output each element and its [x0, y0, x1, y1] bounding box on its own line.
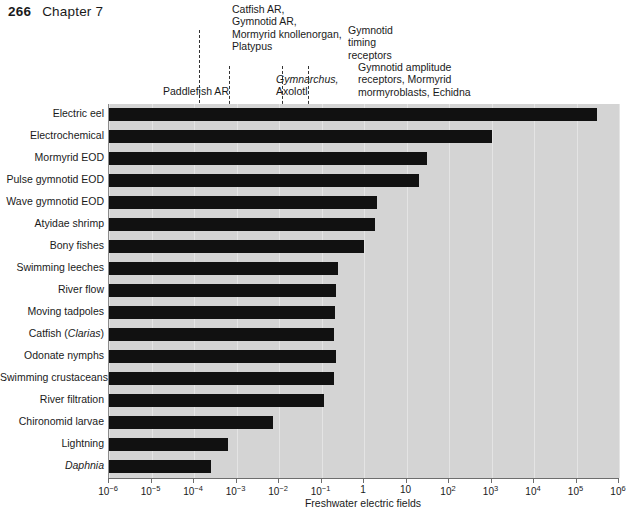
bar-row	[109, 214, 619, 236]
y-axis-label: Pulse gymnotid EOD	[0, 174, 104, 185]
bar-row	[109, 192, 619, 214]
figure-electric-field-chart: Catfish AR,Gymnotid AR,Mormyrid knolleno…	[0, 0, 641, 507]
y-axis-label: Odonate nymphs	[0, 350, 104, 361]
x-axis-tick	[576, 478, 577, 483]
y-axis-label: Catfish (Clarias)	[0, 328, 104, 339]
x-axis-tick	[406, 478, 407, 483]
bar	[109, 218, 375, 231]
bar-row	[109, 280, 619, 302]
y-axis-label: Atyidae shrimp	[0, 218, 104, 229]
annotation-line: Catfish AR,	[232, 3, 352, 15]
x-axis-tick	[533, 478, 534, 483]
bar	[109, 438, 228, 451]
x-axis-tick	[108, 478, 109, 483]
annotation-line: receptors, Mormyrid	[358, 73, 503, 85]
y-axis-label: Bony fishes	[0, 240, 104, 251]
x-axis-tick-label: 10−1	[311, 484, 331, 497]
annotation-line: Axolotl	[276, 85, 346, 97]
y-axis-label: Swimming leeches	[0, 262, 104, 273]
bar	[109, 460, 211, 473]
x-axis-tick	[321, 478, 322, 483]
bar	[109, 306, 335, 319]
x-axis-title: Freshwater electric fields	[108, 497, 618, 507]
annotation-line: timing	[348, 36, 418, 48]
x-axis-tick	[278, 478, 279, 483]
y-axis-label: Electrochemical	[0, 130, 104, 141]
x-axis-tick	[193, 478, 194, 483]
bar-row	[109, 258, 619, 280]
bar-row	[109, 390, 619, 412]
bar	[109, 284, 336, 297]
gridline-decade	[619, 104, 620, 478]
annotation-line: Platypus	[232, 40, 352, 52]
annotation-line: Gymnotid AR,	[232, 15, 352, 27]
bar-row	[109, 126, 619, 148]
x-axis-tick-label: 10−5	[141, 484, 161, 497]
annotation-line: receptors	[348, 49, 418, 61]
x-axis-tick-label: 10−4	[183, 484, 203, 497]
x-axis-tick	[236, 478, 237, 483]
annotation-gymnotid-amplitude: Gymnotid amplitudereceptors, Mormyridmor…	[358, 61, 503, 98]
plot-area	[108, 104, 619, 478]
y-axis-label: River flow	[0, 284, 104, 295]
x-axis-tick-label: 10	[400, 484, 411, 495]
x-axis-tick-label: 10−6	[98, 484, 118, 497]
annotation-paddlefish: Paddlefish AR	[163, 85, 263, 97]
bar-row	[109, 412, 619, 434]
annotation-line: mormyroblasts, Echidna	[358, 86, 503, 98]
x-axis-tick-label: 104	[525, 484, 540, 497]
bar-row	[109, 148, 619, 170]
bar-row	[109, 324, 619, 346]
bar	[109, 328, 334, 341]
x-axis-tick	[363, 478, 364, 483]
bar	[109, 394, 324, 407]
y-axis-label: Wave gymnotid EOD	[0, 196, 104, 207]
bar	[109, 152, 427, 165]
x-axis-tick-label: 10−2	[268, 484, 288, 497]
annotation-line: Gymnotid	[348, 24, 418, 36]
annotation-line: Gymnarchus,	[276, 73, 346, 85]
bar	[109, 240, 364, 253]
bar	[109, 350, 336, 363]
x-axis-tick-label: 1	[360, 484, 366, 495]
y-axis-label: Chironomid larvae	[0, 416, 104, 427]
x-axis-tick	[151, 478, 152, 483]
y-axis-label: Moving tadpoles	[0, 306, 104, 317]
y-axis-label: River filtration	[0, 394, 104, 405]
y-axis-label: Mormyrid EOD	[0, 152, 104, 163]
bar-row	[109, 434, 619, 456]
bar	[109, 196, 377, 209]
bar-row	[109, 456, 619, 478]
bar	[109, 130, 492, 143]
y-axis-label: Lightning	[0, 438, 104, 449]
x-axis-tick-label: 106	[610, 484, 625, 497]
annotation-line: Mormyrid knollenorgan,	[232, 28, 352, 40]
x-axis-tick	[448, 478, 449, 483]
annotation-gymnarchus-group: Gymnarchus,Axolotl	[276, 73, 346, 98]
x-axis-tick-label: 102	[440, 484, 455, 497]
annotation-line: Paddlefish AR	[163, 85, 263, 97]
bar	[109, 108, 597, 121]
y-axis-label: Electric eel	[0, 108, 104, 119]
bar-row	[109, 346, 619, 368]
bar-row	[109, 236, 619, 258]
bar-row	[109, 104, 619, 126]
bar-row	[109, 302, 619, 324]
bar	[109, 372, 334, 385]
x-axis-tick-label: 10−3	[226, 484, 246, 497]
bar	[109, 174, 419, 187]
bar-row	[109, 368, 619, 390]
annotation-line: Gymnotid amplitude	[358, 61, 503, 73]
bar	[109, 262, 338, 275]
bar	[109, 416, 273, 429]
y-axis-label: Swimming crustaceans	[0, 372, 104, 383]
annotation-gymnotid-timing: Gymnotidtimingreceptors	[348, 24, 418, 61]
x-axis-tick-label: 103	[483, 484, 498, 497]
x-axis-tick	[618, 478, 619, 483]
y-axis-label: Daphnia	[0, 460, 104, 471]
x-axis-tick	[491, 478, 492, 483]
bar-row	[109, 170, 619, 192]
x-axis-tick-label: 105	[568, 484, 583, 497]
annotation-catfish-group: Catfish AR,Gymnotid AR,Mormyrid knolleno…	[232, 3, 352, 52]
